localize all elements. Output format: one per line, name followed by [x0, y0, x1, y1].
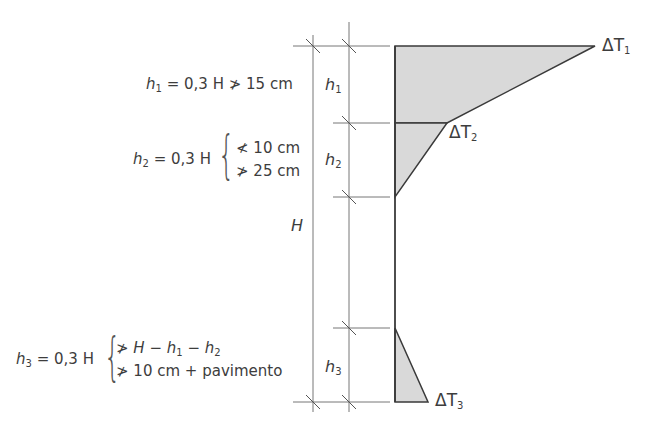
gradient-mid — [395, 123, 447, 197]
dim-label-H: H — [291, 216, 303, 235]
gradient-bottom — [395, 328, 428, 402]
formula-h3-cond1: ≯ H − h1 − h2 — [116, 339, 221, 358]
formula-h2: h2 = 0,3 H — [133, 150, 211, 169]
formula-h3-cond2: ≯ 10 cm + pavimento — [116, 362, 282, 380]
label-dT2: ΔT2 — [449, 122, 477, 143]
dim-label-h2: h2 — [325, 150, 342, 170]
formula-h1: h1 = 0,3 H ≯ 15 cm — [146, 75, 293, 94]
diagram-canvas — [0, 0, 660, 445]
dim-label-h1: h1 — [325, 75, 342, 95]
dim-label-h3: h3 — [325, 357, 342, 377]
brace-h2: { — [218, 128, 235, 180]
formula-h2-cond1: ≮ 10 cm — [236, 139, 300, 157]
gradient-top — [395, 46, 595, 123]
formula-h3: h3 = 0,3 H — [16, 350, 94, 369]
label-dT3: ΔT3 — [435, 390, 463, 411]
formula-h2-cond2: ≯ 25 cm — [236, 162, 300, 180]
label-dT1: ΔT1 — [602, 35, 630, 56]
